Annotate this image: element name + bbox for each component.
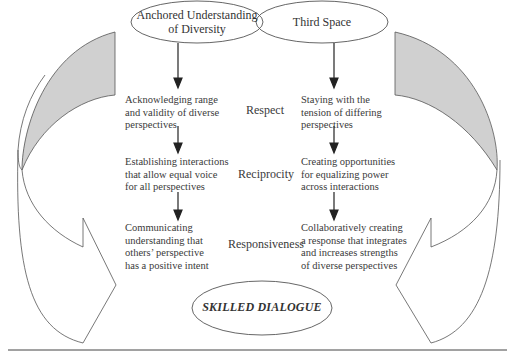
cell-line: tension of differing: [301, 107, 382, 120]
cell-line: perspectives: [301, 119, 382, 132]
cell-line: others’ perspective: [125, 247, 209, 260]
cell-line: has a positive intent: [125, 260, 209, 273]
cell-responsiveness-left: Communicating understanding that others’…: [125, 222, 209, 272]
left-curved-arrow-band: [22, 32, 115, 170]
cell-line: perspectives: [125, 119, 219, 132]
label-line: Anchored Understanding: [131, 8, 263, 22]
cell-line: Staying with the: [301, 94, 382, 107]
right-curved-arrow-band: [395, 32, 497, 170]
row-label-reciprocity: Reciprocity: [228, 167, 304, 182]
cell-line: of diverse perspectives: [301, 260, 407, 273]
cell-line: Establishing interactions: [125, 156, 229, 169]
cell-responsiveness-right: Collaboratively creating a response that…: [301, 222, 407, 272]
cell-line: and increases strengths: [301, 247, 407, 260]
cell-line: and validity of diverse: [125, 107, 219, 120]
row-label-respect: Respect: [230, 103, 300, 118]
label-anchored-understanding: Anchored Understanding of Diversity: [131, 8, 263, 36]
cell-reciprocity-right: Creating opportunities for equalizing po…: [301, 156, 395, 194]
label-line: of Diversity: [131, 22, 263, 36]
cell-respect-right: Staying with the tension of differing pe…: [301, 94, 382, 132]
cell-line: Collaboratively creating: [301, 222, 407, 235]
cell-line: Acknowledging range: [125, 94, 219, 107]
cell-line: that allow equal voice: [125, 169, 229, 182]
label-third-space: Third Space: [256, 15, 388, 29]
cell-line: understanding that: [125, 235, 209, 248]
label-skilled-dialogue: SKILLED DIALOGUE: [192, 300, 332, 315]
cell-line: for equalizing power: [301, 169, 395, 182]
cell-respect-left: Acknowledging range and validity of dive…: [125, 94, 219, 132]
cell-line: Creating opportunities: [301, 156, 395, 169]
cell-line: a response that integrates: [301, 235, 407, 248]
right-curved-arrow-body: [396, 160, 500, 343]
cell-line: across interactions: [301, 181, 395, 194]
row-label-responsiveness: Responsiveness: [220, 237, 312, 252]
cell-line: for all perspectives: [125, 181, 229, 194]
cell-line: Communicating: [125, 222, 209, 235]
cell-reciprocity-left: Establishing interactions that allow equ…: [125, 156, 229, 194]
